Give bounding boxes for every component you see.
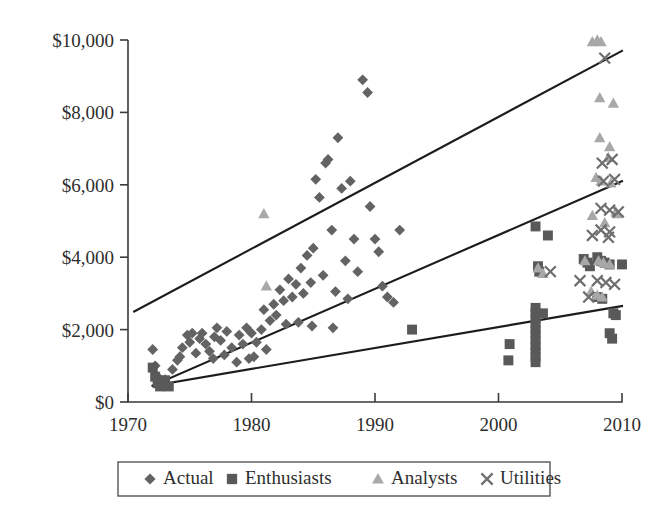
data-point xyxy=(617,259,627,269)
data-point xyxy=(293,317,304,328)
data-point xyxy=(275,284,286,295)
legend-item-label: Enthusiasts xyxy=(245,467,332,488)
data-point xyxy=(167,364,178,375)
data-point xyxy=(212,322,223,333)
data-point xyxy=(221,326,232,337)
data-point xyxy=(531,221,541,231)
data-point xyxy=(308,243,319,254)
data-point xyxy=(314,192,325,203)
y-axis-tick-labels: $0$2,000$4,000$6,000$8,000$10,000 xyxy=(52,30,114,413)
data-point xyxy=(261,280,272,290)
data-point xyxy=(318,270,329,281)
y-tick-label: $0 xyxy=(95,392,114,413)
data-point xyxy=(148,363,158,373)
data-point xyxy=(370,234,381,245)
data-point xyxy=(597,158,608,169)
y-tick-label: $8,000 xyxy=(62,102,114,123)
scatter-chart: $0$2,000$4,000$6,000$8,000$10,000 197019… xyxy=(0,0,665,512)
legend-item-label: Utilities xyxy=(500,467,561,488)
data-point xyxy=(330,286,341,297)
data-point xyxy=(256,324,267,335)
data-point xyxy=(298,288,309,299)
data-point xyxy=(373,246,384,257)
series-actual xyxy=(147,74,405,390)
lower-trend-line xyxy=(153,306,622,386)
data-point xyxy=(326,225,337,236)
y-tick-label: $2,000 xyxy=(62,320,114,341)
data-point xyxy=(164,381,174,391)
data-point xyxy=(365,201,376,212)
data-point xyxy=(362,87,373,98)
data-point xyxy=(307,321,318,332)
legend-item-label: Actual xyxy=(163,467,214,488)
data-point xyxy=(258,304,269,315)
data-point xyxy=(333,132,344,143)
data-point xyxy=(305,277,316,288)
data-point xyxy=(594,132,605,142)
data-point xyxy=(604,141,615,151)
data-point xyxy=(349,234,360,245)
chart-legend[interactable]: ActualEnthusiastsAnalystsUtilities xyxy=(118,462,561,496)
data-point xyxy=(258,208,269,218)
data-point xyxy=(336,183,347,194)
data-point xyxy=(219,350,230,361)
data-point xyxy=(226,342,237,353)
data-point xyxy=(377,281,388,292)
x-tick-label: 1970 xyxy=(109,414,147,435)
y-tick-label: $4,000 xyxy=(62,247,114,268)
chart-canvas: $0$2,000$4,000$6,000$8,000$10,000 197019… xyxy=(0,0,665,512)
data-point xyxy=(231,357,242,368)
data-point xyxy=(302,250,313,261)
x-axis-tick-labels: 19701980199020002010 xyxy=(109,414,641,435)
y-tick-label: $10,000 xyxy=(52,30,114,51)
data-point xyxy=(594,92,605,102)
data-point xyxy=(608,98,619,108)
data-point xyxy=(607,334,617,344)
x-tick-label: 1990 xyxy=(356,414,394,435)
data-point xyxy=(575,275,586,286)
data-point xyxy=(394,225,405,236)
data-point xyxy=(587,210,598,220)
data-point xyxy=(147,344,158,355)
x-tick-label: 1980 xyxy=(233,414,271,435)
y-tick-label: $6,000 xyxy=(62,175,114,196)
data-point xyxy=(538,308,548,318)
data-point xyxy=(545,266,556,277)
x-tick-label: 2010 xyxy=(603,414,641,435)
data-point xyxy=(340,255,351,266)
data-point xyxy=(357,74,368,85)
x-tick-label: 2000 xyxy=(480,414,518,435)
data-point xyxy=(352,266,363,277)
data-point xyxy=(503,355,513,365)
data-point xyxy=(609,279,620,290)
data-point xyxy=(407,325,417,335)
trend-lines-group xyxy=(134,51,622,386)
data-point xyxy=(611,310,621,320)
data-point xyxy=(268,299,279,310)
data-point xyxy=(310,174,321,185)
series-enthusiasts xyxy=(148,221,627,391)
data-point xyxy=(261,344,272,355)
data-point xyxy=(531,357,541,367)
data-point xyxy=(505,339,515,349)
data-point xyxy=(191,348,202,359)
data-point xyxy=(281,319,292,330)
data-point xyxy=(328,322,339,333)
data-point xyxy=(296,263,307,274)
legend-item-label: Analysts xyxy=(391,467,458,488)
data-point xyxy=(543,231,553,241)
legend-marker-square-icon xyxy=(227,474,237,484)
data-point xyxy=(345,176,356,187)
